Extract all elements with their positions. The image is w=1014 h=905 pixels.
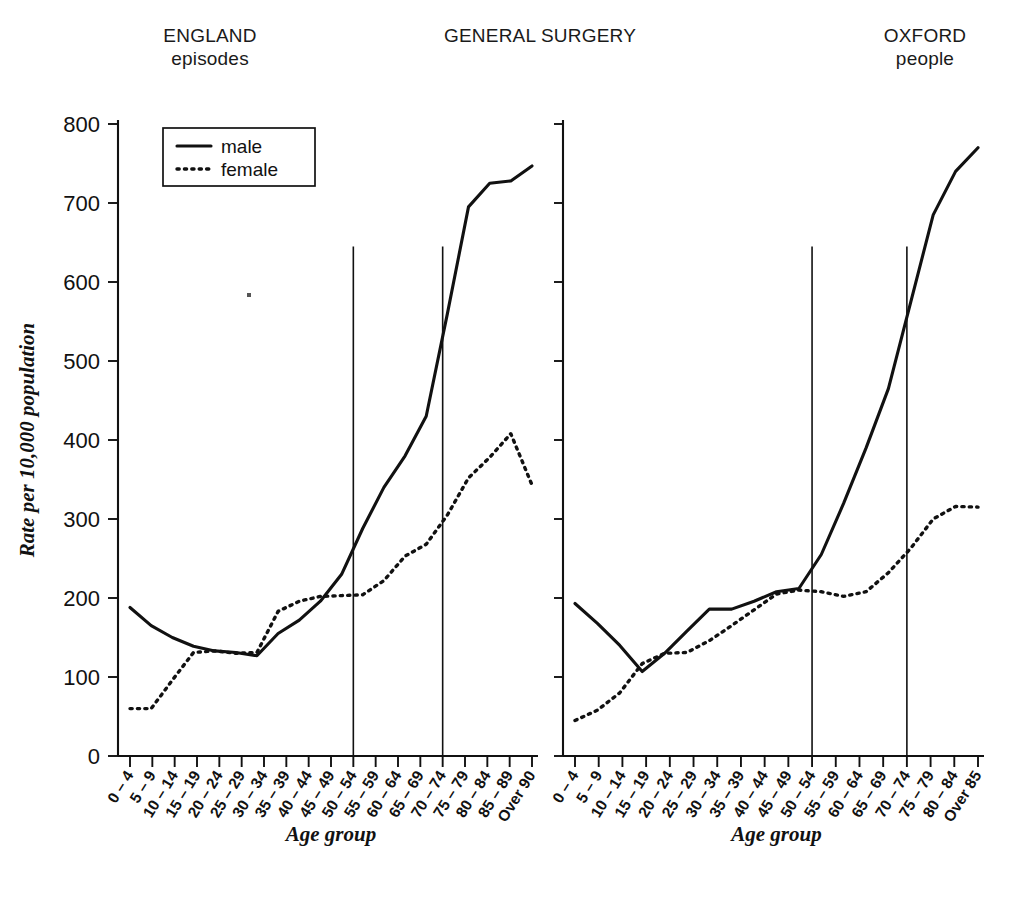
series-line-female: [575, 506, 978, 720]
chart-page: ENGLAND episodes GENERAL SURGERY OXFORD …: [0, 0, 1014, 905]
legend-label-female: female: [221, 159, 278, 180]
series-line-male: [130, 166, 532, 656]
x-axis-title: Age group: [284, 822, 376, 846]
y-axis-tick-label: 600: [63, 270, 100, 295]
y-axis-tick-label: 200: [63, 586, 100, 611]
y-axis-tick-label: 500: [63, 349, 100, 374]
y-axis-tick-label: 700: [63, 191, 100, 216]
series-line-female: [130, 434, 532, 709]
ink-speck: [247, 293, 251, 297]
y-axis-tick-label: 800: [63, 112, 100, 137]
y-axis-tick-label: 300: [63, 507, 100, 532]
y-axis-title: Rate per 10,000 population: [15, 323, 39, 559]
y-axis-tick-label: 100: [63, 665, 100, 690]
y-axis-tick-label: 400: [63, 428, 100, 453]
y-axis-tick-label: 0: [88, 744, 100, 769]
chart-canvas: 0100200300400500600700800Rate per 10,000…: [0, 0, 1014, 905]
legend-label-male: male: [221, 136, 262, 157]
generated-chart-graphics: 0100200300400500600700800Rate per 10,000…: [15, 112, 985, 846]
x-axis-title: Age group: [729, 822, 821, 846]
